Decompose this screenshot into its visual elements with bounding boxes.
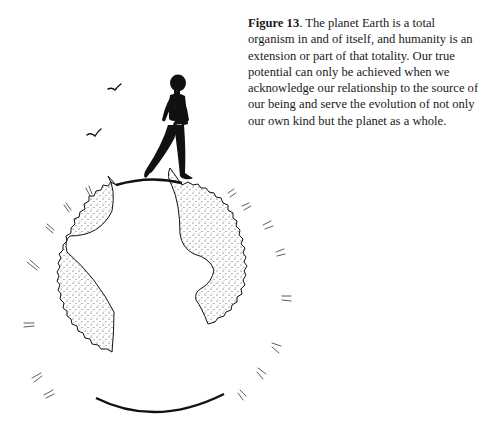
stippled-continent-right — [168, 168, 247, 324]
figure-label: Figure 13 — [248, 16, 299, 30]
walking-person-silhouette — [144, 75, 193, 180]
globe-illustration — [24, 168, 291, 412]
figure-caption-text: . The planet Earth is a total organism i… — [248, 16, 478, 128]
figure-caption: Figure 13. The planet Earth is a total o… — [248, 15, 484, 129]
bird-icon — [108, 84, 121, 90]
bird-icon — [87, 129, 101, 136]
stippled-continent-left — [57, 176, 116, 352]
